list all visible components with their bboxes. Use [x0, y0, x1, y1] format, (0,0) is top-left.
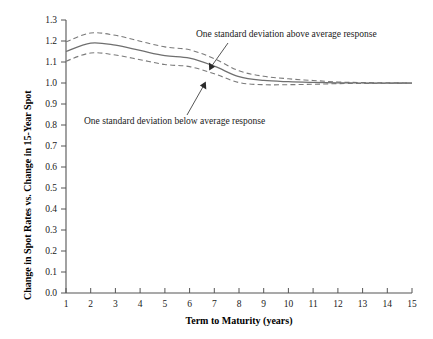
y-tick-label: 1.1: [45, 57, 57, 67]
y-tick-label: 0.6: [45, 162, 57, 172]
x-tick-label: 4: [138, 299, 143, 309]
y-tick-label: 0.9: [45, 99, 57, 109]
x-axis-ticks: 1 2 3 4 5 6 7 8 9 10 11 12 13: [64, 288, 417, 309]
y-tick-label: 0.8: [45, 120, 57, 130]
x-tick-label: 5: [163, 299, 168, 309]
x-tick-label: 7: [212, 299, 217, 309]
x-tick-label: 9: [261, 299, 266, 309]
chart-figure: Change in Spot Rates vs. Change in 15-Ye…: [0, 0, 433, 339]
y-tick-label: 1.0: [45, 78, 57, 88]
annotation-above: One standard deviation above average res…: [196, 29, 377, 71]
x-tick-label: 15: [407, 299, 417, 309]
x-axis-title: Term to Maturity (years): [185, 315, 292, 327]
x-tick-label: 11: [309, 299, 318, 309]
lower-std-dev-curve: [66, 53, 412, 85]
x-tick-label: 10: [284, 299, 294, 309]
x-tick-label: 3: [113, 299, 118, 309]
annotation-below-label: One standard deviation below average res…: [84, 116, 265, 126]
average-response-curve: [66, 43, 412, 83]
y-tick-label: 0.3: [45, 225, 57, 235]
y-axis-ticks: 0.0 0.1 0.2 0.3 0.4 0.5 0.6 0.7 0.8 0.9 …: [45, 15, 66, 298]
x-tick-label: 6: [187, 299, 192, 309]
annotation-above-arrowhead: [209, 63, 215, 71]
annotation-below: One standard deviation below average res…: [84, 82, 265, 127]
y-tick-label: 0.7: [45, 141, 57, 151]
y-axis-title: Change in Spot Rates vs. Change in 15-Ye…: [22, 90, 33, 300]
x-tick-label: 8: [237, 299, 242, 309]
x-tick-label: 1: [64, 299, 69, 309]
annotation-below-arrowhead: [200, 82, 206, 90]
annotation-above-leader: [211, 43, 228, 67]
y-tick-label: 1.3: [45, 15, 57, 25]
annotation-above-label: One standard deviation above average res…: [196, 29, 377, 39]
y-tick-label: 0.0: [45, 288, 57, 298]
x-tick-label: 12: [333, 299, 343, 309]
annotation-below-leader: [187, 85, 204, 115]
y-tick-label: 0.4: [45, 204, 57, 214]
y-tick-label: 0.1: [45, 267, 57, 277]
y-tick-label: 0.2: [45, 246, 57, 256]
y-tick-label: 1.2: [45, 36, 57, 46]
x-tick-label: 13: [358, 299, 368, 309]
x-tick-label: 14: [383, 299, 393, 309]
x-tick-label: 2: [88, 299, 93, 309]
spot-rate-response-chart: Change in Spot Rates vs. Change in 15-Ye…: [0, 0, 433, 339]
y-tick-label: 0.5: [45, 183, 57, 193]
upper-std-dev-curve: [66, 33, 412, 83]
